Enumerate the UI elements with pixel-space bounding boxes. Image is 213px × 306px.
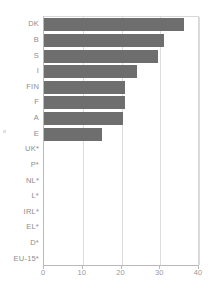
x-tick-label: 0 xyxy=(41,268,45,278)
bar-fill xyxy=(44,112,123,125)
category-label: F xyxy=(34,97,39,106)
category-label: EL* xyxy=(26,222,39,231)
category-label: A xyxy=(34,113,39,122)
bar-fill xyxy=(44,128,102,141)
category-label: L* xyxy=(32,191,40,200)
bar xyxy=(44,81,125,94)
category-label: E xyxy=(34,129,39,138)
tick-mark xyxy=(82,266,83,269)
bar xyxy=(44,50,158,63)
category-label: P* xyxy=(31,160,39,169)
x-tick-label: 30 xyxy=(155,268,163,278)
bar-fill xyxy=(44,50,158,63)
category-label: IRL* xyxy=(24,207,39,216)
bar-chart: DKBSIFINFAEUK*P*NL*L*IRL*EL*D*EU-15* 010… xyxy=(0,0,213,306)
plot-area xyxy=(43,16,199,266)
bar-fill xyxy=(44,18,184,31)
category-axis-labels: DKBSIFINFAEUK*P*NL*L*IRL*EL*D*EU-15* xyxy=(0,16,39,266)
bar xyxy=(44,112,123,125)
bar xyxy=(44,96,125,109)
category-label: B xyxy=(34,35,39,44)
tick-mark xyxy=(198,266,199,269)
bar-fill xyxy=(44,65,137,78)
category-label: EU-15* xyxy=(14,254,39,263)
x-tick-label: 40 xyxy=(194,268,202,278)
category-label: UK* xyxy=(25,144,39,153)
bar xyxy=(44,34,164,47)
bars-layer xyxy=(44,17,198,265)
bar-fill xyxy=(44,81,125,94)
gridline xyxy=(199,17,200,265)
category-label: FIN xyxy=(26,82,39,91)
tick-mark xyxy=(43,266,44,269)
category-label: D* xyxy=(30,238,39,247)
x-tick-label: 20 xyxy=(116,268,124,278)
bar xyxy=(44,18,184,31)
bar-fill xyxy=(44,96,125,109)
bar-fill xyxy=(44,34,164,47)
tick-mark xyxy=(121,266,122,269)
x-tick-label: 10 xyxy=(78,268,86,278)
x-axis-tick-labels: 010203040 xyxy=(43,268,199,282)
bar xyxy=(44,128,102,141)
bar xyxy=(44,65,137,78)
category-label: I xyxy=(37,66,39,75)
category-label: S xyxy=(34,51,39,60)
category-label: NL* xyxy=(26,176,39,185)
category-label: DK xyxy=(28,19,39,28)
tick-mark xyxy=(159,266,160,269)
